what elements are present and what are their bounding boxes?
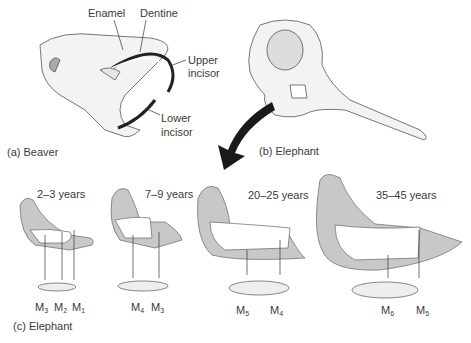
diagram-artwork: [0, 0, 471, 343]
molar-label: M5: [236, 305, 249, 317]
label-lower-incisor-1: Lower: [161, 113, 191, 124]
elephant-skull: [249, 20, 427, 140]
caption-c: (c) Elephant: [13, 321, 72, 332]
molar-label: M5: [416, 305, 429, 317]
label-lower-incisor-2: incisor: [161, 127, 193, 138]
age-stage-3: 20–25 years: [248, 190, 309, 201]
label-dentine: Dentine: [140, 8, 178, 19]
jaw-2-3: [20, 198, 93, 250]
molar-label: M3: [151, 302, 164, 314]
molar-label: M6: [381, 305, 394, 317]
molar-label: M4: [131, 302, 144, 314]
label-enamel: Enamel: [88, 8, 125, 19]
age-stage-2: 7–9 years: [145, 189, 193, 200]
beaver-skull: [40, 34, 168, 137]
age-stage-1: 2–3 years: [37, 189, 85, 200]
molar-label: M2: [54, 302, 67, 314]
molar-label: M4: [270, 305, 283, 317]
caption-b: (b) Elephant: [259, 146, 319, 157]
label-upper-incisor-1: Upper: [188, 55, 218, 66]
molar-label: M1: [72, 302, 85, 314]
caption-a: (a) Beaver: [7, 147, 58, 158]
label-upper-incisor-2: incisor: [188, 68, 220, 79]
curved-arrow-icon: [218, 102, 275, 170]
age-stage-4: 35–45 years: [376, 190, 437, 201]
molar-label: M3: [35, 302, 48, 314]
